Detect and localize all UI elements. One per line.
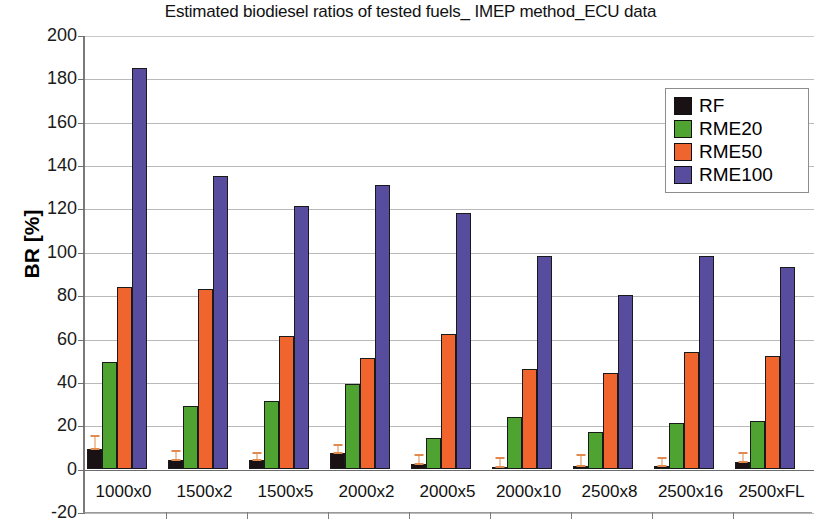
legend-swatch (674, 97, 692, 115)
y-axis-tick (78, 79, 85, 80)
x-axis-tick-label: 2000x2 (326, 482, 407, 502)
legend-swatch (674, 143, 692, 161)
legend-label: RME100 (699, 165, 773, 184)
bar-rme50-2500x16 (684, 352, 699, 469)
legend-swatch (674, 120, 692, 138)
y-axis-tick-label: 140 (33, 156, 77, 174)
y-axis-tick (78, 296, 85, 297)
category-separator (166, 512, 167, 519)
bar-rme100-2000x2 (375, 185, 390, 469)
bar-rme20-1500x2 (183, 406, 198, 469)
bar-rme100-2500xFL (780, 267, 795, 469)
category-separator (571, 512, 572, 519)
y-axis-tick-label: 200 (33, 26, 77, 44)
chart-container: Estimated biodiesel ratios of tested fue… (0, 0, 821, 526)
category-separator (652, 512, 653, 519)
bar-rme20-2500x8 (588, 432, 603, 469)
category-separator (733, 512, 734, 519)
category-separator (247, 512, 248, 519)
bar-group (166, 36, 247, 512)
x-axis-tick-label: 1500x2 (164, 482, 245, 502)
bar-rme50-2000x10 (522, 369, 537, 469)
y-axis-tick (78, 470, 85, 471)
y-axis-tick-label: 20 (33, 416, 77, 434)
y-axis-tick-labels: 200180160140120100806040200-20 (25, 36, 77, 513)
bar-rme100-2000x5 (456, 213, 471, 469)
category-separator (409, 512, 410, 519)
bar-group (85, 36, 166, 512)
y-axis-tick-label: 40 (33, 373, 77, 391)
legend-item-rf: RF (674, 94, 802, 117)
bar-rf-1500x5 (249, 460, 264, 469)
legend-label: RME50 (699, 142, 762, 161)
legend-item-rme100: RME100 (674, 163, 802, 186)
y-axis-tick (78, 209, 85, 210)
bar-rme100-1000x0 (132, 68, 147, 469)
gridline (85, 513, 814, 514)
error-bar (337, 444, 338, 455)
bar-rme100-2000x10 (537, 256, 552, 468)
bar-rme100-1500x2 (213, 176, 228, 469)
y-axis-tick (78, 123, 85, 124)
x-axis-tick-label: 2500x16 (650, 482, 731, 502)
bar-group (490, 36, 571, 512)
y-axis-tick-label: 60 (33, 330, 77, 348)
legend-item-rme50: RME50 (674, 140, 802, 163)
y-axis-tick (78, 340, 85, 341)
x-axis-tick-label: 2000x5 (407, 482, 488, 502)
bar-rme100-2500x8 (618, 295, 633, 468)
bar-rme20-2000x5 (426, 438, 441, 468)
y-axis-tick-label: 120 (33, 199, 77, 217)
bar-rme100-1500x5 (294, 206, 309, 468)
bar-rme20-2500x16 (669, 423, 684, 469)
bar-rme20-2000x10 (507, 417, 522, 469)
y-axis-tick-label: 100 (33, 243, 77, 261)
x-axis-tick-label: 1500x5 (245, 482, 326, 502)
bar-rme50-2500xFL (765, 356, 780, 469)
legend-item-rme20: RME20 (674, 117, 802, 140)
bar-rme100-2500x16 (699, 256, 714, 468)
y-axis-tick-label: -20 (33, 503, 77, 521)
legend-swatch (674, 166, 692, 184)
bar-rme50-1000x0 (117, 287, 132, 469)
error-bar (499, 457, 500, 468)
legend-label: RME20 (699, 119, 762, 138)
y-axis-tick (78, 166, 85, 167)
x-axis-tick-label: 2000x10 (488, 482, 569, 502)
bar-rme50-2500x8 (603, 373, 618, 468)
y-axis-tick (78, 426, 85, 427)
bar-rf-2500x16 (654, 466, 669, 468)
category-separator (328, 512, 329, 519)
error-bar (256, 452, 257, 461)
error-bar (661, 457, 662, 468)
y-axis-tick (78, 513, 85, 514)
bar-rme20-1000x0 (102, 362, 117, 468)
bar-group (247, 36, 328, 512)
y-axis-tick-label: 180 (33, 69, 77, 87)
error-bar (94, 435, 95, 450)
y-axis-tick (78, 253, 85, 254)
chart-legend: RFRME20RME50RME100 (665, 88, 809, 193)
y-axis-tick (78, 36, 85, 37)
y-axis-tick (78, 383, 85, 384)
error-bar (742, 452, 743, 463)
bar-rme20-2500xFL (750, 421, 765, 469)
bar-group (409, 36, 490, 512)
bar-rme50-2000x2 (360, 358, 375, 469)
bar-group (571, 36, 652, 512)
bar-group (328, 36, 409, 512)
bar-rme50-1500x5 (279, 336, 294, 468)
bar-rme20-1500x5 (264, 401, 279, 468)
bar-rf-2500x8 (573, 466, 588, 468)
y-axis-tick-label: 160 (33, 113, 77, 131)
bar-rme20-2000x2 (345, 384, 360, 469)
y-axis-tick-label: 0 (33, 460, 77, 478)
x-axis-tick-label: 2500x8 (569, 482, 650, 502)
bar-rf-1500x2 (168, 460, 183, 469)
y-axis-tick-label: 80 (33, 286, 77, 304)
legend-label: RF (699, 96, 724, 115)
bar-rme50-2000x5 (441, 334, 456, 468)
bar-rf-2000x5 (411, 464, 426, 468)
bar-rme50-1500x2 (198, 289, 213, 469)
x-axis-tick-label: 2500xFL (731, 482, 812, 502)
